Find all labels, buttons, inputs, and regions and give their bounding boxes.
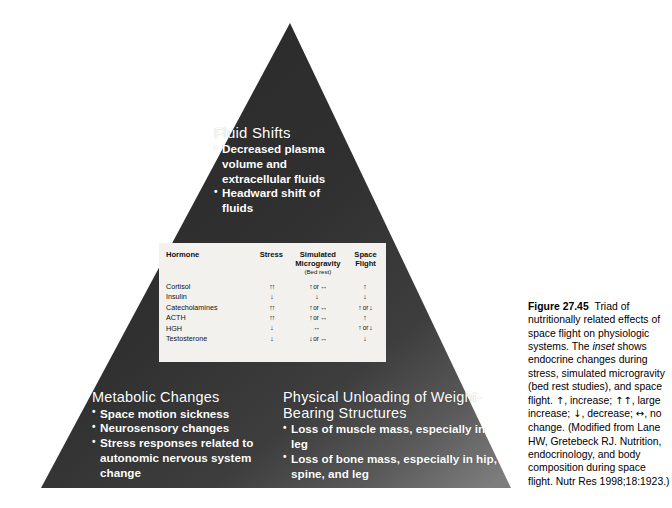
cell-space: ↑or↓ xyxy=(345,303,386,313)
cell-simulated: ↑or↔ xyxy=(291,275,345,292)
caption-number: 27.45 xyxy=(563,301,589,312)
cell-space: ↑ xyxy=(345,275,386,292)
block-physical-unloading: Physical Unloading of Weight-Bearing Str… xyxy=(283,389,499,481)
cell-stress: ↑↑ xyxy=(252,313,291,323)
cell-hormone: HGH xyxy=(159,323,252,333)
list-item: Space motion sickness xyxy=(92,407,282,422)
table-row: HGH ↓ ↔ ↑or↓ xyxy=(159,323,386,333)
cell-stress: ↓ xyxy=(252,292,291,302)
cell-stress: ↓ xyxy=(252,323,291,333)
table-header-row: Hormone Stress Simulated Microgravity (B… xyxy=(159,243,386,275)
physical-unloading-list: Loss of muscle mass, especially in leg L… xyxy=(283,422,499,481)
physical-unloading-title: Physical Unloading of Weight-Bearing Str… xyxy=(283,389,499,421)
fluid-shifts-title: Fluid Shifts xyxy=(214,124,354,141)
table-row: Insulin ↓ ↓ ↓ xyxy=(159,292,386,302)
legend-up-text: , increase; xyxy=(564,395,615,406)
endocrine-table: Hormone Stress Simulated Microgravity (B… xyxy=(159,243,386,344)
legend-down-text: , decrease; xyxy=(581,408,635,419)
caption-label: Figure xyxy=(528,301,560,312)
cell-space: ↓ xyxy=(345,292,386,302)
list-item: Neurosensory changes xyxy=(92,421,282,436)
cell-stress: ↑↑ xyxy=(252,275,291,292)
table-row: Catecholamines ↑↑ ↑or↔ ↑or↓ xyxy=(159,303,386,313)
cell-simulated: ↑or↔ xyxy=(291,303,345,313)
cell-hormone: Cortisol xyxy=(159,275,252,292)
col-header-simulated-main: Simulated Microgravity xyxy=(295,250,340,268)
metabolic-changes-title: Metabolic Changes xyxy=(92,389,282,406)
cell-simulated: ↓ xyxy=(291,292,345,302)
inset-endocrine-table: Hormone Stress Simulated Microgravity (B… xyxy=(159,243,386,362)
cell-hormone: ACTH xyxy=(159,313,252,323)
table-row: Testosterone ↓ ↓or↔ ↓ xyxy=(159,334,386,344)
cell-hormone: Insulin xyxy=(159,292,252,302)
cell-stress: ↓ xyxy=(252,334,291,344)
cell-hormone: Catecholamines xyxy=(159,303,252,313)
figure-caption: Figure 27.45 Triad of nutritionally rela… xyxy=(528,300,670,488)
col-header-space-flight: Space Flight xyxy=(345,243,386,275)
legend-up-arrow-icon: ↑ xyxy=(556,395,564,406)
metabolic-changes-list: Space motion sickness Neurosensory chang… xyxy=(92,407,282,481)
cell-simulated: ↔ xyxy=(291,323,345,333)
cell-hormone: Testosterone xyxy=(159,334,252,344)
fluid-shifts-list: Decreased plasma volume and extracellula… xyxy=(214,142,354,216)
col-header-simulated-microgravity: Simulated Microgravity (Bed rest) xyxy=(291,243,345,275)
cell-space: ↓ xyxy=(345,334,386,344)
list-item: Loss of bone mass, especially in hip, sp… xyxy=(283,452,499,481)
block-metabolic-changes: Metabolic Changes Space motion sickness … xyxy=(92,389,282,480)
col-header-stress: Stress xyxy=(252,243,291,275)
cell-simulated: ↑or↔ xyxy=(291,313,345,323)
cell-simulated: ↓or↔ xyxy=(291,334,345,344)
caption-inset-word: inset xyxy=(592,341,614,352)
table-body: Cortisol ↑↑ ↑or↔ ↑ Insulin ↓ ↓ ↓ Catecho… xyxy=(159,275,386,344)
table-head: Hormone Stress Simulated Microgravity (B… xyxy=(159,243,386,275)
figure-container: Fluid Shifts Decreased plasma volume and… xyxy=(0,0,672,508)
legend-left-right-arrow-icon: ↔ xyxy=(636,408,644,419)
list-item: Headward shift of fluids xyxy=(214,186,354,215)
col-header-hormone: Hormone xyxy=(159,243,252,275)
table-row: Cortisol ↑↑ ↑or↔ ↑ xyxy=(159,275,386,292)
cell-stress: ↑↑ xyxy=(252,303,291,313)
legend-double-up-arrow-icon: ↑↑ xyxy=(615,395,632,406)
list-item: Stress responses related to autonomic ne… xyxy=(92,436,282,480)
cell-space: ↑or↓ xyxy=(345,323,386,333)
col-header-simulated-sub: (Bed rest) xyxy=(291,268,345,275)
cell-space: ↑ xyxy=(345,313,386,323)
list-item: Decreased plasma volume and extracellula… xyxy=(214,142,354,186)
list-item: Loss of muscle mass, especially in leg xyxy=(283,422,499,451)
table-row: ACTH ↑↑ ↑or↔ ↑ xyxy=(159,313,386,323)
block-fluid-shifts: Fluid Shifts Decreased plasma volume and… xyxy=(214,124,354,216)
